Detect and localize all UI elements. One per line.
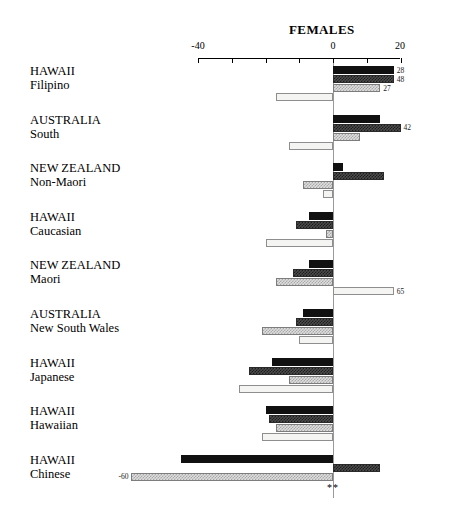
x-axis-label-zero: 0 [331, 40, 336, 51]
category-label: AUSTRALIASouth [30, 113, 101, 141]
category-label: HAWAIIJapanese [30, 356, 75, 384]
bar-value-label: 48 [397, 76, 405, 84]
x-axis-tick [198, 58, 199, 63]
category-label: HAWAIIHawaiian [30, 404, 78, 432]
bar [289, 376, 333, 384]
bar [303, 309, 333, 317]
category-label-subgroup: Maori [30, 272, 120, 286]
bar [266, 239, 334, 247]
bar [333, 172, 384, 180]
category-label-region: AUSTRALIA [30, 307, 101, 321]
category-label-region: NEW ZEALAND [30, 161, 120, 175]
category-label-subgroup: South [30, 127, 101, 141]
x-axis-label-max: 20 [395, 40, 405, 51]
x-axis-tick [299, 58, 300, 63]
category-label: NEW ZEALANDNon-Maori [30, 161, 120, 189]
bar [262, 327, 333, 335]
bar [239, 385, 334, 393]
bar [309, 212, 333, 220]
category-label-subgroup: Japanese [30, 370, 75, 384]
category-label-subgroup: New South Wales [30, 321, 119, 335]
bar [276, 93, 333, 101]
category-label: HAWAIIChinese [30, 453, 75, 481]
category-label-subgroup: Non-Maori [30, 175, 120, 189]
bar [309, 260, 333, 268]
bar-value-label: 27 [383, 85, 391, 93]
category-label-subgroup: Filipino [30, 78, 75, 92]
category-label-region: HAWAII [30, 404, 75, 418]
bar [269, 415, 333, 423]
bar-value-label: 42 [404, 124, 412, 132]
bar [333, 75, 394, 83]
bar [333, 464, 380, 472]
category-label-region: HAWAII [30, 356, 75, 370]
bar [293, 269, 334, 277]
bar [272, 358, 333, 366]
x-axis-tick [266, 58, 267, 63]
x-axis-label-min: -40 [191, 40, 204, 51]
category-label: HAWAIICaucasian [30, 210, 81, 238]
bar [303, 181, 333, 189]
bar [131, 473, 334, 481]
category-label-subgroup: Hawaiian [30, 418, 78, 432]
x-axis-tick [401, 58, 402, 63]
bar [181, 455, 333, 463]
bar [276, 278, 333, 286]
bar [296, 221, 333, 229]
x-axis-tick [367, 58, 368, 63]
x-axis-tick [232, 58, 233, 63]
category-label-region: HAWAII [30, 64, 75, 78]
bar [333, 66, 394, 74]
category-label-region: NEW ZEALAND [30, 258, 120, 272]
bar-value-label: -60 [119, 473, 129, 481]
category-label-region: HAWAII [30, 210, 75, 224]
bar [289, 142, 333, 150]
x-axis-tick [333, 58, 334, 63]
bar [326, 230, 333, 238]
bar [276, 424, 333, 432]
category-label-subgroup: Caucasian [30, 224, 81, 238]
bar [323, 190, 333, 198]
bar [333, 84, 380, 92]
bar [333, 287, 394, 295]
category-label-region: AUSTRALIA [30, 113, 101, 127]
bar-value-label: 28 [397, 67, 405, 75]
category-label: AUSTRALIANew South Wales [30, 307, 119, 335]
bar [333, 163, 343, 171]
bar [333, 115, 380, 123]
bar [266, 406, 334, 414]
chart-title: FEMALES [289, 22, 355, 38]
bar [262, 433, 333, 441]
significance-marker: ** [327, 482, 339, 493]
category-label-subgroup: Chinese [30, 467, 75, 481]
bar [333, 133, 360, 141]
bar [296, 318, 333, 326]
chart-container: FEMALES -40 0 20 HAWAIIFilipinoAUSTRALIA… [0, 0, 467, 523]
bar [299, 336, 333, 344]
category-label: NEW ZEALANDMaori [30, 258, 120, 286]
category-label-region: HAWAII [30, 453, 75, 467]
category-label: HAWAIIFilipino [30, 64, 75, 92]
bar [249, 367, 333, 375]
bar [333, 124, 401, 132]
bar-value-label: 65 [397, 288, 405, 296]
